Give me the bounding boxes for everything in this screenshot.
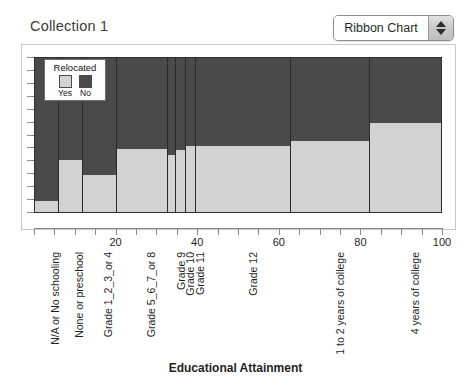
- x-axis-tick: [279, 228, 280, 235]
- x-axis-tick: [95, 228, 96, 235]
- bar-segment-yes[interactable]: [176, 150, 185, 212]
- x-axis-tick: [156, 228, 157, 235]
- x-axis-tick: [340, 228, 341, 235]
- x-axis-tick: [381, 228, 382, 235]
- category-label: None or preschool: [74, 252, 85, 338]
- x-axis-tick-label: 100: [433, 236, 451, 248]
- x-axis-tick-label: 60: [273, 236, 285, 248]
- legend-item[interactable]: No: [79, 75, 92, 98]
- x-axis-tick: [136, 228, 137, 235]
- category-label: Grade 5_6_7_or 8: [146, 252, 157, 337]
- bar-segment-yes[interactable]: [370, 123, 441, 212]
- x-axis-tick: [238, 228, 239, 235]
- collection-title: Collection 1: [30, 18, 108, 34]
- x-axis-tick: [442, 228, 443, 235]
- legend-items: YesNo: [49, 75, 101, 98]
- x-axis-tick: [75, 228, 76, 235]
- category-label: Grade 1_2_3_or 4: [103, 252, 114, 337]
- legend-swatch-no: [79, 75, 92, 88]
- x-axis-tick-label: 20: [109, 236, 121, 248]
- x-axis-tick-label: 40: [191, 236, 203, 248]
- bar-grade-10[interactable]: [176, 58, 186, 212]
- x-axis-tick: [401, 228, 402, 235]
- legend-swatch-yes: [59, 75, 72, 88]
- x-axis: [34, 228, 442, 236]
- chart-legend: Relocated YesNo: [44, 59, 106, 101]
- x-axis-tick: [258, 228, 259, 235]
- bar-segment-yes[interactable]: [291, 141, 369, 212]
- legend-label: Yes: [58, 89, 72, 98]
- chart-type-dropdown[interactable]: Ribbon Chart: [333, 15, 454, 41]
- bar-grade-5-6-7-or-8[interactable]: [117, 58, 168, 212]
- x-axis-tick: [320, 228, 321, 235]
- x-axis-tick: [177, 228, 178, 235]
- bar-segment-yes[interactable]: [168, 155, 175, 212]
- triangle-down-icon[interactable]: [436, 29, 446, 35]
- x-axis-tick: [360, 228, 361, 235]
- bar-grade-11[interactable]: [186, 58, 196, 212]
- bar-1-to-2-years-of-college[interactable]: [291, 58, 370, 212]
- bar-grade-9[interactable]: [168, 58, 176, 212]
- bar-segment-yes[interactable]: [186, 146, 195, 212]
- category-label: 1 to 2 years of college: [335, 252, 346, 355]
- bar-segment-yes[interactable]: [83, 175, 117, 212]
- category-label: Grade 11: [195, 252, 206, 295]
- category-label: Grade 12: [248, 252, 259, 296]
- x-axis-tick: [218, 228, 219, 235]
- bar-grade-12[interactable]: [196, 58, 291, 212]
- bar-segment-yes[interactable]: [59, 160, 82, 212]
- bar-segment-yes[interactable]: [196, 146, 290, 212]
- bar-segment-yes[interactable]: [117, 149, 167, 212]
- legend-title: Relocated: [49, 63, 101, 73]
- x-axis-tick: [116, 228, 117, 235]
- legend-item[interactable]: Yes: [58, 75, 72, 98]
- category-label: 4 years of college: [410, 252, 421, 334]
- legend-label: No: [80, 89, 91, 98]
- x-axis-tick: [54, 228, 55, 235]
- bar-4-years-of-college[interactable]: [370, 58, 441, 212]
- chart-type-value[interactable]: Ribbon Chart: [334, 16, 428, 40]
- x-axis-tick: [197, 228, 198, 235]
- x-axis-tick: [422, 228, 423, 235]
- x-axis-tick-label: 80: [354, 236, 366, 248]
- category-label: N/A or No schooling: [50, 252, 61, 345]
- bar-segment-yes[interactable]: [35, 201, 58, 212]
- x-axis-tick: [299, 228, 300, 235]
- triangle-up-icon[interactable]: [436, 21, 446, 27]
- x-axis-title: Educational Attainment: [0, 361, 471, 375]
- chart-header: Collection 1 Ribbon Chart: [0, 0, 471, 46]
- chart-type-stepper[interactable]: [428, 16, 453, 40]
- x-axis-tick: [34, 228, 35, 235]
